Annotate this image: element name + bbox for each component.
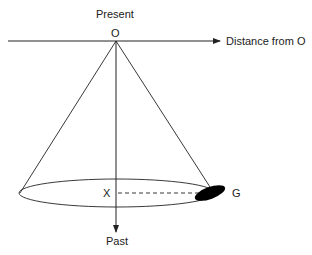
x-point-label: X [103,188,110,199]
distance-axis-label: Distance from O [226,36,305,47]
cone-left-edge [20,41,116,193]
galaxy-label: G [232,188,241,199]
cone-right-edge [116,41,210,187]
present-label: Present [96,9,134,20]
cone-base-ellipse [19,179,215,207]
past-label: Past [106,236,128,247]
origin-label: O [111,28,120,39]
